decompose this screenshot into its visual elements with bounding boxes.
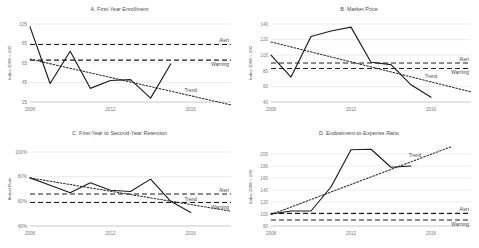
y-tick-label: 85 <box>22 41 28 46</box>
trend-label: Trend <box>425 74 438 79</box>
y-tick-label: 200 <box>260 152 268 157</box>
panel-b-svg: 140120100806040200820122016Index 2008 = … <box>239 0 479 124</box>
panel-a: A. First-Year Enrollment 105856545252008… <box>0 0 239 124</box>
x-tick-label: 2008 <box>266 231 277 236</box>
y-tick-label: 105 <box>19 22 27 27</box>
panel-d: D. Endowment-to-Expense Ratio 2001801601… <box>239 124 479 248</box>
y-tick-label: 45 <box>22 80 28 85</box>
warning-label: Warning <box>451 222 469 227</box>
y-tick-label: 40% <box>18 224 27 229</box>
y-tick-label: 140 <box>260 188 268 193</box>
x-tick-label: 2012 <box>105 107 116 112</box>
panel-c-plot: 100%80%60%40%200820122016Actual RateAler… <box>0 124 239 248</box>
trend-line <box>30 178 231 211</box>
x-tick-label: 2016 <box>186 231 197 236</box>
panel-b: B. Market Price 140120100806040200820122… <box>239 0 479 124</box>
y-axis-title: Index 2008 = 100 <box>248 169 253 204</box>
alert-label: Alert <box>219 38 230 43</box>
y-tick-label: 120 <box>260 200 268 205</box>
trend-label: Trend <box>185 197 198 202</box>
y-tick-label: 100 <box>260 53 268 58</box>
y-tick-label: 80% <box>18 174 27 179</box>
y-tick-label: 140 <box>260 22 268 27</box>
panel-d-plot: 20018016014012010080200820122016Index 20… <box>239 124 479 248</box>
x-tick-label: 2008 <box>266 107 277 112</box>
y-tick-label: 160 <box>260 176 268 181</box>
y-axis-title: Index 2008 = 100 <box>7 45 12 80</box>
trend-line <box>30 59 231 105</box>
x-tick-label: 2012 <box>346 231 357 236</box>
panel-d-svg: 20018016014012010080200820122016Index 20… <box>239 124 479 248</box>
chart-grid: A. First-Year Enrollment 105856545252008… <box>0 0 479 248</box>
x-tick-label: 2016 <box>426 231 437 236</box>
y-tick-label: 60 <box>263 84 269 89</box>
y-tick-label: 60% <box>18 199 27 204</box>
data-series-line <box>30 27 171 98</box>
alert-label: Alert <box>459 207 470 212</box>
x-tick-label: 2008 <box>25 107 36 112</box>
panel-a-plot: 10585654525200820122016Index 2008 = 100A… <box>0 0 239 124</box>
y-tick-label: 100% <box>15 150 27 155</box>
trend-line <box>271 147 451 215</box>
trend-label: Trend <box>409 153 422 158</box>
x-tick-label: 2008 <box>25 231 36 236</box>
x-tick-label: 2016 <box>186 107 197 112</box>
data-series-line <box>30 178 191 213</box>
y-tick-label: 100 <box>260 212 268 217</box>
trend-line <box>271 42 471 92</box>
y-tick-label: 180 <box>260 164 268 169</box>
y-tick-label: 40 <box>263 100 269 105</box>
panel-a-svg: 10585654525200820122016Index 2008 = 100A… <box>0 0 239 124</box>
y-tick-label: 80 <box>263 69 269 74</box>
y-tick-label: 120 <box>260 37 268 42</box>
alert-label: Alert <box>219 188 230 193</box>
x-tick-label: 2016 <box>426 107 437 112</box>
panel-b-plot: 140120100806040200820122016Index 2008 = … <box>239 0 479 124</box>
y-axis-title: Actual Rate <box>7 177 12 200</box>
y-tick-label: 80 <box>263 224 269 229</box>
y-tick-label: 65 <box>22 61 28 66</box>
trend-label: Trend <box>185 88 198 93</box>
warning-label: Warning <box>211 62 229 67</box>
y-axis-title: Index 2008 = 100 <box>248 45 253 80</box>
y-tick-label: 25 <box>22 100 28 105</box>
alert-label: Alert <box>459 57 470 62</box>
data-series-line <box>271 149 411 214</box>
x-tick-label: 2012 <box>105 231 116 236</box>
panel-c: C. First-Year to Second-Year Retention 1… <box>0 124 239 248</box>
x-tick-label: 2012 <box>346 107 357 112</box>
warning-label: Warning <box>211 205 229 210</box>
warning-label: Warning <box>451 70 469 75</box>
panel-c-svg: 100%80%60%40%200820122016Actual RateAler… <box>0 124 239 248</box>
